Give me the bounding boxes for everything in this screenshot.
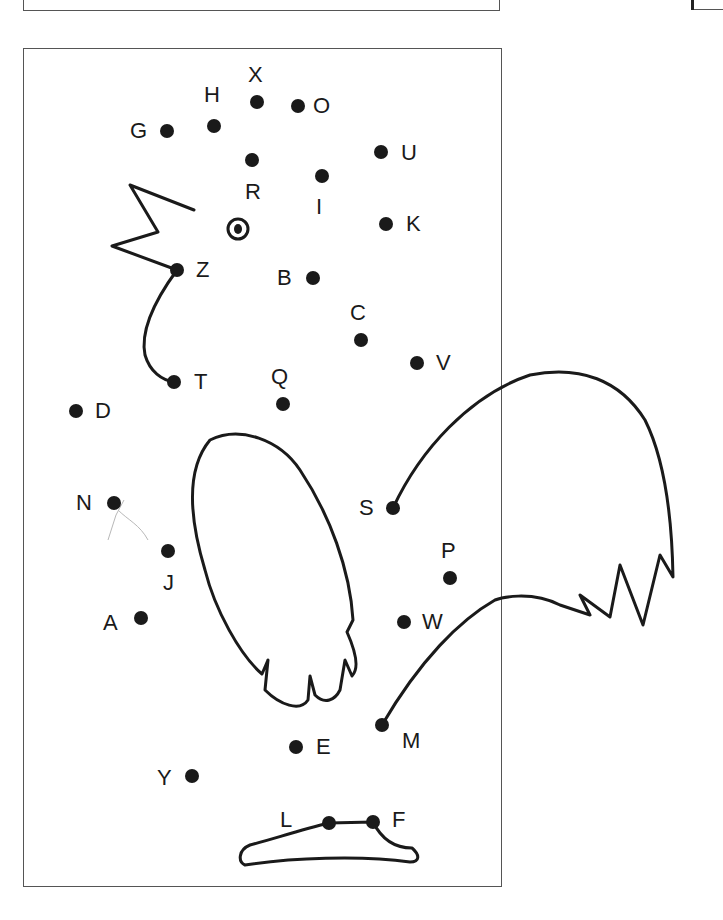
dot-v	[410, 356, 424, 370]
dot-label: D	[95, 400, 111, 422]
dot-label: G	[130, 120, 147, 142]
dot-w	[397, 615, 411, 629]
dot-r	[245, 153, 259, 167]
dot-k	[379, 217, 393, 231]
neck-line	[144, 270, 177, 382]
dot-label: Y	[157, 767, 172, 789]
dot-y	[185, 769, 199, 783]
dot-label: H	[204, 84, 220, 106]
dot-label: V	[436, 352, 451, 374]
start-target-icon	[228, 219, 248, 239]
dot-p	[443, 571, 457, 585]
comb-outline	[112, 185, 194, 270]
dot-label: X	[248, 64, 263, 86]
dot-label: M	[402, 730, 420, 752]
dot-label: I	[316, 196, 322, 218]
dot-l	[322, 816, 336, 830]
dot-label: Q	[271, 366, 288, 388]
dot-g	[160, 124, 174, 138]
dot-o	[291, 99, 305, 113]
dot-i	[315, 169, 329, 183]
dot-label: T	[194, 371, 207, 393]
dot-label: P	[441, 540, 456, 562]
wing-outline	[193, 434, 357, 706]
dot-z	[170, 263, 184, 277]
dot-label: F	[392, 809, 405, 831]
dot-label: A	[103, 612, 118, 634]
dot-q	[276, 397, 290, 411]
dot-a	[134, 611, 148, 625]
dot-label: N	[76, 492, 92, 514]
dot-j	[161, 544, 175, 558]
dot-label: J	[163, 572, 174, 594]
dot-u	[374, 145, 388, 159]
dot-label: S	[359, 497, 374, 519]
dot-label: R	[245, 181, 261, 203]
dot-e	[289, 740, 303, 754]
dot-d	[69, 404, 83, 418]
dot-t	[167, 375, 181, 389]
dot-label: O	[313, 95, 330, 117]
dot-label: E	[316, 736, 331, 758]
tail-outline	[382, 372, 673, 725]
dot-c	[354, 333, 368, 347]
dot-n	[107, 496, 121, 510]
dots-layer	[69, 95, 457, 830]
dot-m	[375, 718, 389, 732]
dot-s	[386, 501, 400, 515]
pencil-stroke	[118, 510, 148, 540]
dot-label: L	[280, 809, 292, 831]
dot-label: B	[277, 267, 292, 289]
dot-label: K	[406, 213, 421, 235]
dot-label: Z	[196, 259, 209, 281]
dot-x	[250, 95, 264, 109]
dot-label: C	[350, 302, 366, 324]
rooster-drawing	[0, 0, 723, 920]
dot-label: U	[401, 142, 417, 164]
dot-label: W	[422, 611, 443, 633]
dot-b	[306, 271, 320, 285]
dot-f	[366, 815, 380, 829]
dot-h	[207, 119, 221, 133]
